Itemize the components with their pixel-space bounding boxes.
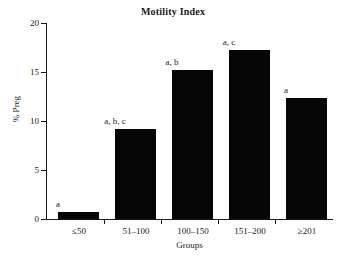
y-axis-title: % Preg <box>11 79 21 139</box>
y-tick-mark-0 <box>41 219 46 220</box>
bar-annotation-4: a, c <box>194 38 264 47</box>
bar-annotation-5: a <box>251 86 321 95</box>
x-tick-mark-1 <box>104 220 105 224</box>
bar-group-2[interactable] <box>115 129 156 219</box>
y-tick-mark-5 <box>41 170 46 171</box>
x-tick-label-3: 100–150 <box>162 226 224 236</box>
x-tick-mark-3 <box>218 220 219 224</box>
y-tick-label-5: 5 <box>0 166 39 175</box>
x-tick-label-4: 151–200 <box>219 226 281 236</box>
bar-group-5[interactable] <box>286 98 327 219</box>
x-tick-mark-2 <box>161 220 162 224</box>
y-tick-label-15: 15 <box>0 68 39 77</box>
x-axis-title: Groups <box>47 240 332 250</box>
bar-group-4[interactable] <box>229 50 270 219</box>
bar-annotation-2: a, b, c <box>80 117 150 126</box>
bar-annotation-1: a <box>23 200 93 209</box>
chart-title: Motility Index <box>0 6 346 17</box>
x-tick-label-1: ≤50 <box>48 226 110 236</box>
x-axis-line <box>46 219 333 220</box>
x-tick-mark-4 <box>275 220 276 224</box>
y-tick-mark-20 <box>41 23 46 24</box>
bar-group-1[interactable] <box>58 212 99 219</box>
bar-annotation-3: a, b <box>137 58 207 67</box>
y-tick-mark-10 <box>41 121 46 122</box>
bar-chart-figure: Motility Index 20 15 10 5 0 a a, b, c a,… <box>0 0 346 268</box>
bar-group-3[interactable] <box>172 70 213 219</box>
x-tick-label-2: 51–100 <box>105 226 167 236</box>
y-tick-label-0: 0 <box>0 215 39 224</box>
x-tick-label-5: ≥201 <box>276 226 338 236</box>
y-tick-label-20: 20 <box>0 19 39 28</box>
y-tick-mark-15 <box>41 72 46 73</box>
